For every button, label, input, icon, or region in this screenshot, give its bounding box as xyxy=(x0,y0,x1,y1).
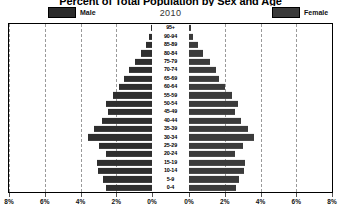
age-group-label-cell: 35-39 xyxy=(152,125,189,133)
age-group-label: 20-24 xyxy=(164,151,177,156)
male-bar xyxy=(108,109,152,115)
female-bar xyxy=(189,117,241,123)
age-group-label: 55-59 xyxy=(164,93,177,98)
age-group-label: 25-29 xyxy=(164,143,177,148)
age-group-label-cell: 55-59 xyxy=(152,91,189,99)
male-bar-cell xyxy=(9,41,152,49)
female-bar xyxy=(189,92,232,98)
male-bar xyxy=(103,176,152,182)
female-bar xyxy=(189,176,239,182)
male-bar xyxy=(124,75,152,81)
age-group-label: 75-79 xyxy=(164,59,177,64)
female-bar-cell xyxy=(189,158,332,166)
male-bar-cell xyxy=(9,83,152,91)
female-bar-cell xyxy=(189,49,332,57)
male-bar-cell xyxy=(9,74,152,82)
pyramid-row: 25-29 xyxy=(9,142,332,150)
female-bar-cell xyxy=(189,58,332,66)
x-axis-tick-label: 8% xyxy=(4,198,13,205)
plot-area: 95+90-9485-8980-8475-7970-7465-6960-6455… xyxy=(8,23,333,193)
age-group-label-cell: 25-29 xyxy=(152,142,189,150)
x-axis-tick xyxy=(116,193,117,197)
male-bar-cell xyxy=(9,91,152,99)
age-group-label-cell: 15-19 xyxy=(152,158,189,166)
female-bar-cell xyxy=(189,133,332,141)
x-axis-tick xyxy=(261,193,262,197)
female-bar xyxy=(189,134,254,140)
age-group-label-cell: 90-94 xyxy=(152,32,189,40)
pyramid-row: 50-54 xyxy=(9,100,332,108)
male-bar-cell xyxy=(9,49,152,57)
male-bar-cell xyxy=(9,167,152,175)
x-axis-tick-label: 0% xyxy=(147,198,156,205)
age-group-label: 80-84 xyxy=(164,51,177,56)
age-group-label-cell: 95+ xyxy=(152,24,189,32)
male-bar xyxy=(106,185,152,191)
male-bar-cell xyxy=(9,24,152,32)
x-axis-tick xyxy=(225,193,226,197)
age-group-label-cell: 80-84 xyxy=(152,49,189,57)
age-group-label-cell: 5-9 xyxy=(152,175,189,183)
age-group-label-cell: 20-24 xyxy=(152,150,189,158)
female-bar-cell xyxy=(189,66,332,74)
female-bar-cell xyxy=(189,184,332,192)
female-bar xyxy=(189,168,244,174)
female-bar xyxy=(189,75,219,81)
x-axis-tick-label: 4% xyxy=(256,198,265,205)
x-axis-tick xyxy=(45,193,46,197)
age-group-label-cell: 60-64 xyxy=(152,83,189,91)
male-bar xyxy=(88,134,152,140)
female-bar-cell xyxy=(189,91,332,99)
pyramid-row: 85-89 xyxy=(9,41,332,49)
male-bar xyxy=(102,117,152,123)
age-group-label-cell: 0-4 xyxy=(152,184,189,192)
male-bar-cell xyxy=(9,58,152,66)
pyramid-row: 0-4 xyxy=(9,184,332,192)
age-group-label-cell: 70-74 xyxy=(152,66,189,74)
age-group-label-cell: 30-34 xyxy=(152,133,189,141)
x-axis-tick xyxy=(152,193,153,197)
age-group-label: 15-19 xyxy=(164,160,177,165)
pyramid-row: 75-79 xyxy=(9,58,332,66)
x-axis: 8%6%4%2%0%0%2%4%6%8% xyxy=(8,193,333,216)
male-bar xyxy=(135,59,152,65)
male-bar xyxy=(113,92,152,98)
male-bar-cell xyxy=(9,100,152,108)
male-bar-cell xyxy=(9,108,152,116)
male-bar xyxy=(98,168,152,174)
male-bar-cell xyxy=(9,66,152,74)
age-group-label: 65-69 xyxy=(164,76,177,81)
x-axis-tick-label: 2% xyxy=(112,198,121,205)
age-group-label: 60-64 xyxy=(164,84,177,89)
pyramid-row: 55-59 xyxy=(9,91,332,99)
x-axis-tick xyxy=(296,193,297,197)
x-axis-tick-label: 2% xyxy=(220,198,229,205)
female-bar-cell xyxy=(189,142,332,150)
chart-year-label: 2010 xyxy=(0,8,341,18)
pyramid-row: 30-34 xyxy=(9,133,332,141)
pyramid-row: 90-94 xyxy=(9,32,332,40)
male-bar xyxy=(119,84,152,90)
age-group-label-cell: 65-69 xyxy=(152,74,189,82)
male-bar-cell xyxy=(9,133,152,141)
male-bar xyxy=(94,126,152,132)
female-bar-cell xyxy=(189,32,332,40)
x-axis-tick-label: 6% xyxy=(40,198,49,205)
pyramid-row: 5-9 xyxy=(9,175,332,183)
age-group-label: 0-4 xyxy=(167,185,174,190)
age-group-label: 30-34 xyxy=(164,135,177,140)
x-axis-tick-label: 4% xyxy=(76,198,85,205)
male-bar xyxy=(106,101,152,107)
female-bar xyxy=(189,185,236,191)
pyramid-row: 70-74 xyxy=(9,66,332,74)
pyramid-row: 60-64 xyxy=(9,83,332,91)
male-bar-cell xyxy=(9,184,152,192)
female-bar xyxy=(189,42,198,48)
female-bar xyxy=(189,159,245,165)
female-bar-cell xyxy=(189,83,332,91)
age-group-label: 70-74 xyxy=(164,67,177,72)
age-group-label: 90-94 xyxy=(164,34,177,39)
pyramid-row: 35-39 xyxy=(9,125,332,133)
female-bar-cell xyxy=(189,74,332,82)
age-group-label: 50-54 xyxy=(164,101,177,106)
